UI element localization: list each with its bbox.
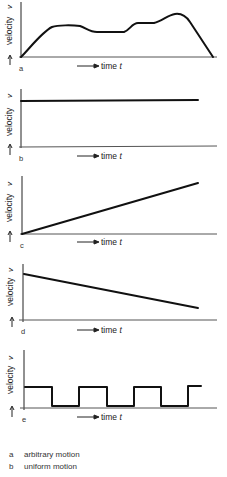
- caption-b: b uniform motion: [0, 461, 227, 473]
- panel-b: velocity v b time t: [4, 89, 217, 163]
- y-axis-symbol: v: [6, 267, 15, 272]
- y-axis-arrow-icon: [8, 231, 12, 242]
- caption-a: a arbitrary motion: [0, 449, 227, 461]
- time-arrow-icon: [77, 328, 99, 332]
- y-axis-label: velocity: [4, 107, 14, 136]
- y-axis-arrow-icon: [10, 317, 14, 327]
- y-axis-symbol: v: [5, 4, 14, 9]
- panel-letter: d: [21, 327, 25, 336]
- velocity-line-decelerating: [24, 274, 198, 308]
- x-axis-label: time t: [101, 325, 122, 335]
- x-axis-label: time t: [101, 237, 122, 247]
- velocity-line-uniform: [21, 100, 198, 101]
- panel-e: velocity v e time t: [5, 350, 217, 424]
- caption-letter: a: [9, 449, 13, 461]
- y-axis-symbol: v: [5, 93, 14, 98]
- x-axis: [19, 146, 217, 147]
- panel-letter: a: [19, 64, 24, 73]
- caption-text: uniform motion: [24, 461, 77, 473]
- caption-text: arbitrary motion: [24, 449, 80, 461]
- caption-letter: b: [9, 461, 13, 473]
- y-axis-label: velocity: [5, 277, 15, 306]
- velocity-curve-periodic: [25, 386, 201, 406]
- y-axis-arrow-icon: [10, 406, 14, 417]
- y-axis-label: velocity: [4, 16, 14, 45]
- y-axis-arrow-icon: [8, 55, 12, 65]
- x-axis-label: time t: [101, 151, 122, 161]
- panel-letter: b: [19, 154, 23, 163]
- panel-a: velocity v a time t: [4, 2, 217, 73]
- panel-letter: e: [22, 415, 26, 424]
- panel-c: velocity v c time t: [4, 176, 217, 250]
- time-arrow-icon: [77, 415, 99, 419]
- y-axis-symbol: v: [5, 181, 14, 186]
- time-arrow-icon: [77, 154, 99, 158]
- figure-captions: a arbitrary motion b uniform motion: [0, 449, 227, 473]
- velocity-line-accelerating: [22, 183, 198, 234]
- time-arrow-icon: [77, 240, 99, 244]
- time-arrow-icon: [77, 64, 99, 68]
- y-axis-arrow-icon: [8, 144, 12, 155]
- panel-letter: c: [20, 241, 24, 250]
- y-axis-label: velocity: [4, 193, 14, 222]
- y-axis-label: velocity: [5, 365, 15, 394]
- x-axis-label: time t: [101, 412, 122, 422]
- velocity-time-figure: velocity v a time t velocity v b time t …: [0, 0, 227, 445]
- x-axis-label: time t: [101, 61, 122, 71]
- y-axis-symbol: v: [6, 355, 15, 360]
- velocity-curve-arbitrary: [21, 14, 213, 57]
- panel-d: velocity v d time t: [5, 264, 217, 336]
